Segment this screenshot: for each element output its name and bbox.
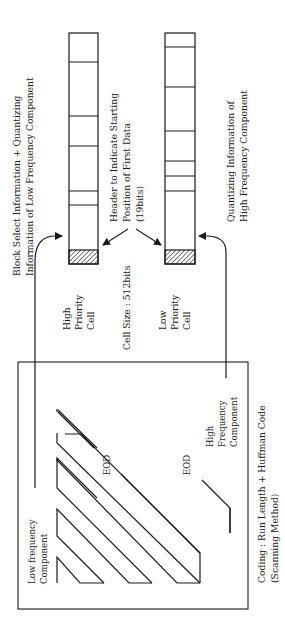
low-priority-info-label: Quantizing Information of High Frequency… [225,90,249,222]
header-note-line3: (19bits) [134,186,145,222]
coding-label: Coding : Run Length + Huffman Code (Scan… [256,405,280,583]
packet-cell-diagram: Block Select Information + Quantizing In… [0,0,285,631]
low-priority-cell-label-line1: Low [157,310,168,330]
header-note-label: Header to Indicate Starting Position of … [108,93,145,222]
low-priority-header-hatch [165,250,195,264]
low-freq-line1: Low frequency [27,519,37,584]
high-freq-arrow [199,236,226,378]
low-priority-cell-label-line3: Cell [181,312,192,330]
low-priority-info-line1: Quantizing Information of [225,100,236,222]
high-priority-header-hatch [69,250,98,264]
high-priority-cell-bar [69,33,98,264]
high-priority-cell-label-line1: High [61,307,72,330]
low-priority-cell-bar [165,33,195,264]
header-arrow-to-low [136,229,161,245]
header-note-line2: Position of First Data [121,123,132,222]
low-freq-line2: Component [39,533,49,584]
high-priority-cell-label: High Priority Cell [61,294,96,330]
low-priority-cell-label: Low Priority Cell [157,294,192,330]
high-freq-label: High Frequency Component [205,396,239,447]
eod-label-1: EOD [102,455,112,475]
high-freq-line1: High [205,425,215,447]
cell-size-label: Cell Size : 512bits [121,265,132,350]
scan-lines [58,410,97,448]
low-priority-info-line2: High Frequency Component [238,90,249,222]
eod-label-2: EOD [182,455,192,475]
header-note-line1: Header to Indicate Starting [108,93,119,222]
high-priority-info-line2: Information of Low Frequency Component [24,77,35,276]
high-freq-line2: Frequency [217,400,227,447]
cell-size-text: Cell Size : 512bits [121,265,132,350]
high-freq-line3: Component [229,396,239,447]
header-arrow-to-high [103,229,128,245]
high-priority-info-line1: Block Select Information + Quantizing [11,95,22,276]
low-priority-cell-label-line2: Priority [169,294,180,330]
high-priority-info-label: Block Select Information + Quantizing In… [11,77,35,276]
high-priority-cell-label-line3: Cell [85,312,96,330]
low-freq-label: Low frequency Component [27,519,49,584]
coding-line1: Coding : Run Length + Huffman Code [256,405,267,583]
coding-line2: (Scanning Method) [269,494,280,583]
high-priority-cell-label-line2: Priority [73,294,84,330]
eod-text-2: EOD [182,455,192,475]
eod-text-1: EOD [102,455,112,475]
